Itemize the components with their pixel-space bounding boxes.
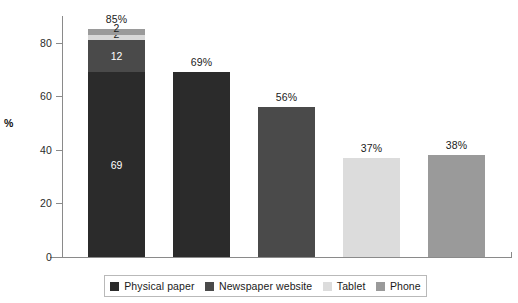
x-axis-line (50, 257, 512, 258)
y-axis-tick-label-text: 80 (12, 37, 52, 49)
bar-total-label: 38% (428, 139, 485, 151)
bar-column[interactable] (173, 72, 230, 257)
bar-total-label: 56% (258, 91, 315, 103)
chart-legend: Physical paperNewspaper websiteTabletPho… (104, 275, 427, 297)
legend-item[interactable]: Tablet (321, 280, 368, 292)
y-axis-tick-label-text: 0 (12, 251, 52, 263)
bar-total-label: 85% (88, 13, 145, 25)
bar-segment[interactable] (428, 155, 485, 257)
y-axis-tick-label-text: 20 (12, 197, 52, 209)
y-axis-title: % (4, 117, 13, 129)
plot-area: 69122285%69%56%37%38% (62, 14, 510, 257)
bar-segment[interactable]: 69 (88, 72, 145, 257)
bar-segment-value-label: 12 (88, 51, 145, 62)
y-axis-tick-label: 40 (12, 144, 52, 156)
y-axis-tick-label: 20 (12, 197, 52, 209)
y-axis-tick-label: 60 (12, 90, 52, 102)
bar-column[interactable] (428, 155, 485, 257)
legend-item[interactable]: Phone (374, 280, 423, 292)
bar-column[interactable] (258, 107, 315, 257)
y-axis-tick (56, 257, 63, 258)
legend-swatch-icon (110, 282, 119, 291)
bar-segment[interactable]: 2 (88, 29, 145, 34)
bar-segment[interactable] (173, 72, 230, 257)
legend-item[interactable]: Physical paper (108, 280, 196, 292)
bar-column[interactable] (343, 158, 400, 257)
legend-label: Phone (390, 280, 421, 292)
legend-label: Newspaper website (219, 280, 312, 292)
bar-segment[interactable]: 2 (88, 35, 145, 40)
y-axis-tick-label-text: 40 (12, 144, 52, 156)
bar-segment[interactable] (258, 107, 315, 257)
y-axis-tick-label: 0 (12, 251, 52, 263)
bar-total-label: 69% (173, 56, 230, 68)
bar-segment[interactable] (343, 158, 400, 257)
legend-swatch-icon (376, 282, 385, 291)
legend-swatch-icon (323, 282, 332, 291)
bar-total-label: 37% (343, 142, 400, 154)
bar-segment-value-label: 69 (88, 159, 145, 170)
legend-swatch-icon (205, 282, 214, 291)
legend-item[interactable]: Newspaper website (203, 280, 314, 292)
y-axis-tick-label: 80 (12, 37, 52, 49)
legend-label: Physical paper (124, 280, 194, 292)
bar-column[interactable]: 691222 (88, 29, 145, 257)
legend-label: Tablet (337, 280, 366, 292)
x-axis-end-cap (511, 252, 512, 258)
y-axis-tick-label-text: 60 (12, 90, 52, 102)
bar-segment[interactable]: 12 (88, 40, 145, 72)
bar-chart: % 020406080 69122285%69%56%37%38% Physic… (0, 0, 518, 303)
